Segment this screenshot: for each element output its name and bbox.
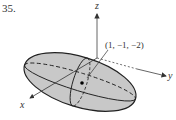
- center-point-label: (1, −1, −2): [105, 40, 144, 50]
- y-axis: [137, 69, 166, 76]
- ellipsoid-figure: [0, 0, 176, 120]
- ellipsoid-body: [17, 41, 143, 120]
- problem-number: 35.: [2, 3, 16, 13]
- center-point: [80, 81, 84, 85]
- x-axis-label: x: [20, 100, 24, 110]
- y-axis-label: y: [168, 71, 172, 81]
- z-axis-label: z: [95, 1, 99, 11]
